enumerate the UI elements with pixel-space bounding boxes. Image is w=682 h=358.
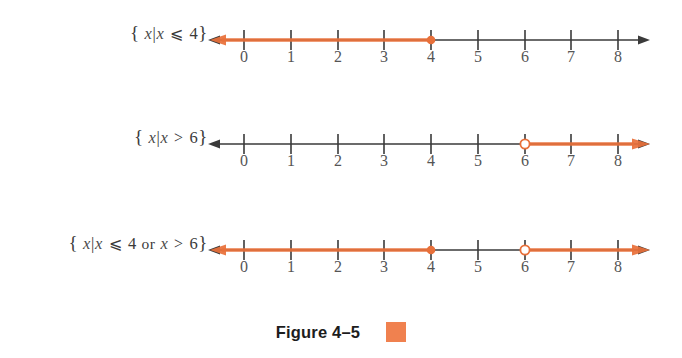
number-line-axis bbox=[0, 218, 682, 304]
open-endpoint-6 bbox=[520, 245, 529, 254]
solution-ray-right bbox=[525, 245, 650, 256]
figure-caption-text: Figure 4–5 bbox=[276, 323, 361, 342]
solution-ray-right bbox=[525, 139, 650, 150]
closed-endpoint-4 bbox=[427, 36, 436, 45]
number-line-axis bbox=[0, 8, 682, 94]
solution-ray-left bbox=[210, 245, 431, 256]
color-swatch bbox=[386, 322, 406, 342]
open-endpoint-6 bbox=[520, 139, 529, 148]
closed-endpoint-4 bbox=[427, 246, 436, 255]
number-line-row: { x|x ⩽ 4 or x > 6} bbox=[0, 218, 682, 304]
number-line-axis bbox=[0, 112, 682, 198]
figure-caption: Figure 4–5 bbox=[0, 322, 682, 342]
number-line-row: { x|x ⩽ 4} bbox=[0, 8, 682, 94]
number-line-row: { x|x > 6} bbox=[0, 112, 682, 198]
solution-ray-left bbox=[210, 35, 431, 46]
number-line-figure: { x|x ⩽ 4} bbox=[0, 0, 682, 358]
